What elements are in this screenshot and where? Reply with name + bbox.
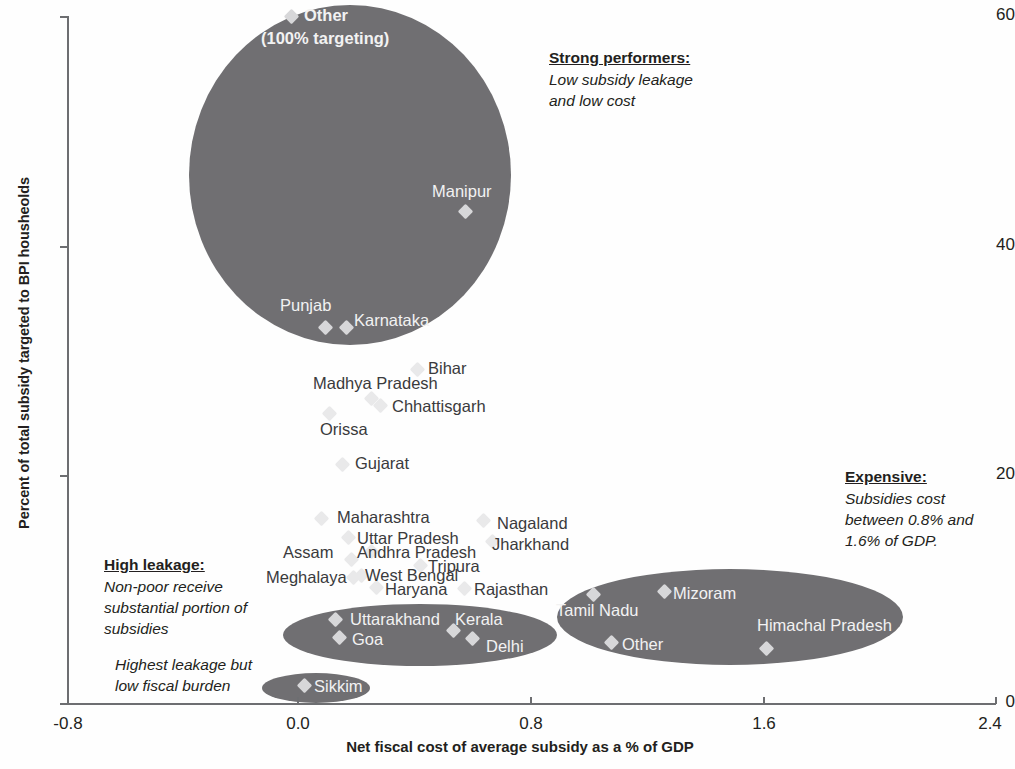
marker-uttar-pradesh xyxy=(341,530,357,546)
label-chhattisgarh: Chhattisgarh xyxy=(392,398,486,415)
label-mizoram: Mizoram xyxy=(673,585,736,602)
label-nagaland: Nagaland xyxy=(497,515,568,532)
annotation-expensive-line2: between 0.8% and xyxy=(845,510,973,531)
annotation-high-leakage: High leakage: Non-poor receive substanti… xyxy=(104,555,247,640)
label-delhi: Delhi xyxy=(486,638,524,655)
annotation-low-fiscal-burden-line2: low fiscal burden xyxy=(115,676,252,697)
label-karnataka: Karnataka xyxy=(354,312,429,329)
annotation-strong-performers-line1: Low subsidy leakage xyxy=(549,70,693,91)
x-tick-24 xyxy=(995,697,997,704)
label-tamil-nadu: Tamil Nadu xyxy=(556,602,639,619)
marker-orissa xyxy=(322,406,338,422)
label-uttarakhand: Uttarakhand xyxy=(350,611,440,628)
label-other-100-line2: (100% targeting) xyxy=(261,30,389,47)
label-rajasthan: Rajasthan xyxy=(474,581,548,598)
y-tick-label-60: 60 xyxy=(963,5,1015,25)
annotation-expensive-line3: 1.6% of GDP. xyxy=(845,531,973,552)
label-himachal-pradesh: Himachal Pradesh xyxy=(757,617,892,634)
x-tick-16 xyxy=(763,697,765,704)
x-tick-label-00: 0.0 xyxy=(263,714,333,734)
x-axis-title: Net fiscal cost of average subsidy as a … xyxy=(170,738,870,755)
y-tick-20 xyxy=(60,475,68,477)
marker-rajasthan xyxy=(457,581,473,597)
label-jharkhand: Jharkhand xyxy=(492,536,569,553)
x-tick-08 xyxy=(530,697,532,704)
y-tick-label-20: 20 xyxy=(963,464,1015,484)
annotation-strong-performers-line2: and low cost xyxy=(549,91,693,112)
annotation-high-leakage-line3: subsidies xyxy=(104,619,247,640)
y-tick-label-0: 0 xyxy=(963,692,1015,712)
annotation-high-leakage-heading: High leakage: xyxy=(104,555,247,576)
x-tick-00 xyxy=(297,697,299,704)
annotation-low-fiscal-burden: Highest leakage but low fiscal burden xyxy=(115,655,252,697)
x-axis-line xyxy=(67,703,996,705)
y-tick-60 xyxy=(60,16,68,18)
label-orissa: Orissa xyxy=(320,421,368,438)
label-sikkim: Sikkim xyxy=(314,678,363,695)
annotation-high-leakage-line1: Non-poor receive xyxy=(104,577,247,598)
label-punjab: Punjab xyxy=(280,297,331,314)
label-other-right: Other xyxy=(622,636,663,653)
x-tick-label-08: 0.8 xyxy=(496,714,566,734)
marker-nagaland xyxy=(476,513,492,529)
label-manipur: Manipur xyxy=(432,183,492,200)
label-madhya-pradesh: Madhya Pradesh xyxy=(313,375,438,392)
annotation-expensive-line1: Subsidies cost xyxy=(845,489,973,510)
scatter-chart: Other (100% targeting) Manipur Punjab Ka… xyxy=(0,0,1015,769)
label-gujarat: Gujarat xyxy=(355,455,409,472)
annotation-high-leakage-line2: substantial portion of xyxy=(104,598,247,619)
label-maharashtra: Maharashtra xyxy=(337,509,430,526)
marker-maharashtra xyxy=(314,511,330,527)
x-tick-label-neg08: -0.8 xyxy=(33,714,103,734)
y-axis-title: Percent of total subsidy targeted to BPI… xyxy=(16,143,32,563)
x-tick-label-16: 1.6 xyxy=(729,714,799,734)
annotation-expensive: Expensive: Subsidies cost between 0.8% a… xyxy=(845,467,973,552)
label-meghalaya: Meghalaya xyxy=(266,569,347,586)
x-tick-label-24: 2.4 xyxy=(955,714,1015,734)
x-tick-neg08 xyxy=(67,697,69,704)
annotation-strong-performers-heading: Strong performers: xyxy=(549,48,693,69)
y-axis-line xyxy=(67,16,69,704)
label-other-100-line1: Other xyxy=(304,7,348,24)
label-haryana: Haryana xyxy=(385,581,447,598)
plot-area: Other (100% targeting) Manipur Punjab Ka… xyxy=(0,0,1015,769)
annotation-strong-performers: Strong performers: Low subsidy leakage a… xyxy=(549,48,693,112)
marker-gujarat xyxy=(335,457,351,473)
y-tick-40 xyxy=(60,246,68,248)
label-assam: Assam xyxy=(283,544,333,561)
label-goa: Goa xyxy=(352,631,383,648)
y-tick-label-40: 40 xyxy=(963,235,1015,255)
label-kerala: Kerala xyxy=(455,611,503,628)
annotation-low-fiscal-burden-line1: Highest leakage but xyxy=(115,655,252,676)
bubble-top-cluster xyxy=(189,5,511,345)
annotation-expensive-heading: Expensive: xyxy=(845,467,973,488)
